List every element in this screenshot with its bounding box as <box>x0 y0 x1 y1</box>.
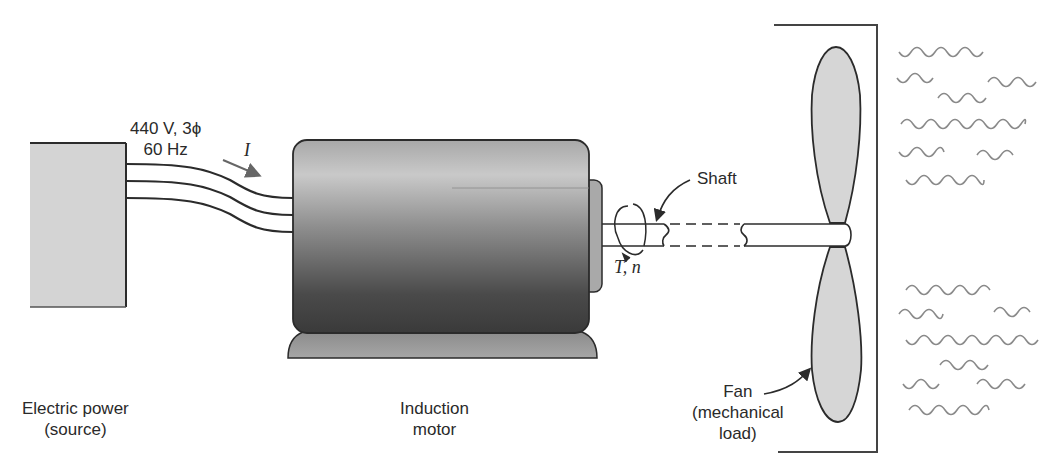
airflow-waves <box>897 48 1038 415</box>
source-label: Electric power (source) <box>22 398 129 440</box>
shaft <box>602 224 851 246</box>
fan-blades <box>812 47 862 422</box>
torque-speed-label: T, n <box>614 257 641 278</box>
fan-label-line1: Fan <box>692 381 784 402</box>
shaft-leader-arrow <box>657 180 690 219</box>
motor-label: Induction motor <box>400 398 469 440</box>
current-symbol: I <box>244 140 250 161</box>
motor-body <box>293 140 589 333</box>
source-label-line1: Electric power <box>22 398 129 419</box>
power-source-box <box>30 143 126 307</box>
diagram-canvas <box>0 0 1063 468</box>
supply-rating-label: 440 V, 3ϕ 60 Hz <box>130 118 201 160</box>
fan-label-line3: load) <box>692 423 784 444</box>
fan-label-line2: (mechanical <box>692 402 784 423</box>
current-arrow-icon <box>223 160 258 175</box>
supply-voltage-text: 440 V, 3ϕ <box>130 118 201 139</box>
supply-frequency-text: 60 Hz <box>130 139 201 160</box>
shaft-label: Shaft <box>697 168 737 189</box>
source-label-line2: (source) <box>22 419 129 440</box>
rotation-arrow-icon <box>615 204 646 262</box>
motor-label-line2: motor <box>400 419 469 440</box>
fan-label: Fan (mechanical load) <box>692 381 784 444</box>
motor-base <box>288 332 597 358</box>
motor-label-line1: Induction <box>400 398 469 419</box>
three-phase-wires <box>126 164 293 232</box>
